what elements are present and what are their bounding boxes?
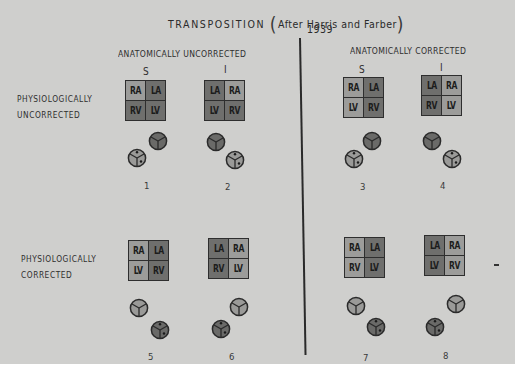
chamber-lv: LV xyxy=(129,261,148,280)
diagram-number-1: 1 xyxy=(144,180,149,191)
chamber-la: LA xyxy=(422,76,441,95)
chamber-ra: RA xyxy=(225,81,244,100)
row-label-physiologically-corrected: PHYSIOLOGICALLY CORRECTED xyxy=(21,251,96,283)
diagram-number-8: 8 xyxy=(443,350,448,361)
subcolumn-s-left: S xyxy=(143,66,149,77)
diagram-number-6: 6 xyxy=(229,351,234,362)
chamber-la: LA xyxy=(149,241,168,260)
chamber-lv: LV xyxy=(344,98,363,117)
chamber-label: LA xyxy=(210,85,220,96)
chamber-label: LV xyxy=(349,102,358,113)
heart-diagram-3: RALALVRV xyxy=(343,77,384,118)
diagram-number-2: 2 xyxy=(225,181,230,192)
chamber-la: LA xyxy=(146,81,165,100)
subcolumn-s-right: S xyxy=(359,64,365,75)
heart-diagram-5: RALALVRV xyxy=(128,240,169,281)
dotted-light-great-vessel-icon xyxy=(442,149,462,169)
chamber-label: LA xyxy=(214,243,224,254)
row-label-line1: PHYSIOLOGICALLY xyxy=(21,251,96,267)
chamber-label: RA xyxy=(349,242,360,253)
chamber-la: LA xyxy=(209,239,228,258)
chamber-rv: RV xyxy=(364,98,383,117)
chamber-ra: RA xyxy=(229,239,248,258)
chamber-label: RA xyxy=(130,85,141,96)
dark-great-vessel-icon xyxy=(148,131,168,151)
light-great-vessel-icon xyxy=(346,296,366,316)
chamber-la: LA xyxy=(364,78,383,97)
heading-anatomically-uncorrected: ANATOMICALLY UNCORRECTED xyxy=(118,48,246,59)
chamber-label: LV xyxy=(134,265,143,276)
dark-great-vessel-icon xyxy=(422,131,442,151)
row-label-line1: PHYSIOLOGICALLY xyxy=(17,91,92,107)
stray-mark xyxy=(494,264,499,266)
chamber-rv: RV xyxy=(149,261,168,280)
dark-great-vessel-icon xyxy=(362,131,382,151)
chamber-label: LA xyxy=(370,242,380,253)
heart-diagram-1: RALARVLV xyxy=(125,80,166,121)
chamber-lv: LV xyxy=(205,101,224,120)
diagram-number-4: 4 xyxy=(440,180,445,191)
chamber-label: RA xyxy=(446,80,457,91)
chamber-label: RA xyxy=(449,240,460,251)
chamber-label: RV xyxy=(213,263,224,274)
chamber-label: LV xyxy=(210,105,219,116)
title-main: TRANSPOSITION xyxy=(168,18,265,30)
chamber-la: LA xyxy=(365,238,384,257)
chamber-la: LA xyxy=(425,236,444,255)
chamber-ra: RA xyxy=(345,238,364,257)
chamber-label: LA xyxy=(430,240,440,251)
heading-anatomically-corrected: ANATOMICALLY CORRECTED xyxy=(350,45,466,56)
heart-diagram-7: RALARVLV xyxy=(344,237,385,278)
light-great-vessel-icon xyxy=(229,297,249,317)
chamber-ra: RA xyxy=(344,78,363,97)
heart-diagram-6: LARARVLV xyxy=(208,238,249,279)
diagram-number-5: 5 xyxy=(148,351,153,362)
chamber-label: RV xyxy=(449,260,460,271)
row-label-physiologically-uncorrected: PHYSIOLOGICALLY UNCORRECTED xyxy=(17,91,92,123)
chamber-label: LA xyxy=(369,82,379,93)
chamber-lv: LV xyxy=(442,96,461,115)
chamber-label: LV xyxy=(370,262,379,273)
diagram-title: TRANSPOSITION (After Harris and Farber) xyxy=(168,10,405,32)
dotted-dark-great-vessel-icon xyxy=(425,317,445,337)
chamber-label: RA xyxy=(348,82,359,93)
slide: TRANSPOSITION (After Harris and Farber) … xyxy=(0,0,515,364)
heart-diagram-8: LARALVRV xyxy=(424,235,465,276)
chamber-label: RV xyxy=(368,102,379,113)
light-great-vessel-icon xyxy=(129,298,149,318)
light-great-vessel-icon xyxy=(446,294,466,314)
chamber-rv: RV xyxy=(225,101,244,120)
diagram-number-3: 3 xyxy=(360,181,365,192)
subcolumn-i-left: I xyxy=(224,64,227,75)
chamber-la: LA xyxy=(205,81,224,100)
chamber-label: LA xyxy=(151,85,161,96)
chamber-label: RV xyxy=(426,100,437,111)
open-paren: ( xyxy=(270,13,278,35)
title-year: 1939 xyxy=(307,23,333,35)
dotted-light-great-vessel-icon xyxy=(225,150,245,170)
dotted-dark-great-vessel-icon xyxy=(211,319,231,339)
chamber-ra: RA xyxy=(129,241,148,260)
column-divider xyxy=(299,38,306,355)
row-label-line2: CORRECTED xyxy=(21,267,96,283)
chamber-label: LV xyxy=(151,105,160,116)
row-label-line2: UNCORRECTED xyxy=(17,107,92,123)
chamber-lv: LV xyxy=(146,101,165,120)
chamber-ra: RA xyxy=(445,236,464,255)
chamber-label: LV xyxy=(447,100,456,111)
chamber-label: LA xyxy=(427,80,437,91)
chamber-label: RV xyxy=(130,105,141,116)
heart-diagram-2: LARALVRV xyxy=(204,80,245,121)
chamber-label: LV xyxy=(430,260,439,271)
chamber-rv: RV xyxy=(422,96,441,115)
chamber-label: RV xyxy=(349,262,360,273)
chamber-ra: RA xyxy=(442,76,461,95)
chamber-label: RA xyxy=(233,243,244,254)
heart-diagram-4: LARARVLV xyxy=(421,75,462,116)
chamber-label: RA xyxy=(229,85,240,96)
chamber-lv: LV xyxy=(365,258,384,277)
diagram-number-7: 7 xyxy=(363,352,368,363)
dotted-light-great-vessel-icon xyxy=(344,149,364,169)
chamber-label: RV xyxy=(153,265,164,276)
chamber-rv: RV xyxy=(126,101,145,120)
